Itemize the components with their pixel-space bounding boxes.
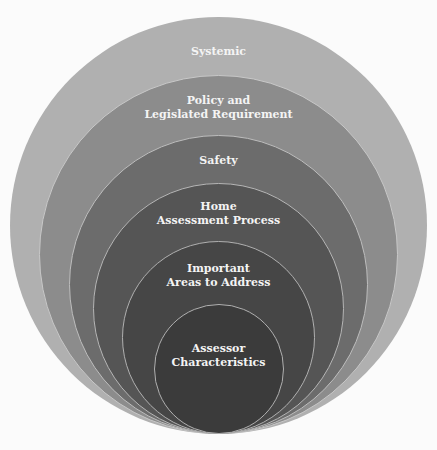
label-policy: Policy andLegislated Requirement [0,94,437,122]
label-home-assessment: HomeAssessment Process [0,200,437,228]
label-safety: Safety [0,154,437,168]
label-systemic: Systemic [0,45,437,59]
label-important-areas: ImportantAreas to Address [0,262,437,290]
label-assessor: AssessorCharacteristics [0,342,437,370]
